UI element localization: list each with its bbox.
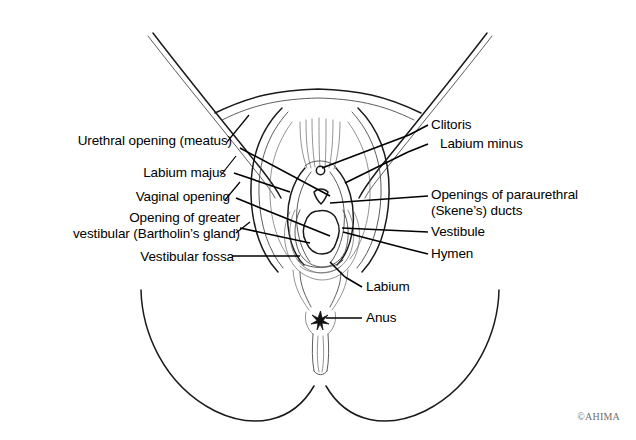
leader-labium-short — [345, 277, 362, 287]
leader-hymen-short — [408, 249, 428, 254]
label-labium-minus: Labium minus — [440, 136, 523, 152]
leader-labium-minus — [345, 152, 408, 183]
leader-bartholin — [240, 228, 310, 243]
label-vaginal-opening: Vaginal opening — [136, 189, 230, 205]
leader-hymen — [343, 232, 408, 249]
leader-urethral-opening — [240, 148, 330, 196]
copyright-notice: ©AHIMA — [577, 411, 620, 422]
label-bartholin-gland: Opening of greater vestibular (Bartholin… — [73, 210, 240, 242]
label-urethral-opening: Urethral opening (meatus) — [78, 133, 232, 149]
label-labium: Labium — [366, 279, 410, 295]
label-hymen: Hymen — [431, 246, 473, 262]
leader-labium — [330, 262, 345, 277]
leader-vestibule — [342, 228, 428, 232]
leader-clitoris — [322, 135, 409, 168]
label-clitoris: Clitoris — [431, 117, 471, 133]
leader-skene-ducts — [330, 196, 428, 203]
label-skene-ducts: Openings of paraurethral (Skene’s) ducts — [431, 187, 578, 219]
leader-clitoris-short — [409, 125, 428, 135]
label-labium-majus: Labium majus — [143, 165, 226, 181]
leader-labium-minus-short — [408, 144, 428, 152]
label-vestibular-fossa: Vestibular fossa — [140, 249, 234, 265]
label-anus: Anus — [366, 310, 396, 326]
leader-labium-majus — [234, 173, 290, 192]
anatomical-figure: Urethral opening (meatus) Labium majus V… — [0, 0, 636, 440]
label-vestibule: Vestibule — [431, 224, 485, 240]
